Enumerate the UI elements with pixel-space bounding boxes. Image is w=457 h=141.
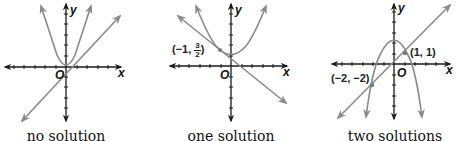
line-curve <box>22 16 120 121</box>
caption-one-solution: one solution <box>188 128 275 141</box>
x-axis-label: x <box>118 66 125 80</box>
x-axis-label: x <box>283 65 290 79</box>
y-axis-label: y <box>70 3 77 17</box>
point-label-1-1: (1, 1) <box>410 46 436 58</box>
point-label-prefix: (−1, <box>172 43 191 55</box>
caption-no-solution: no solution <box>27 128 106 141</box>
point-label-neg1-3half: (−1,32) <box>172 42 204 59</box>
intersection-point-1-1 <box>403 51 407 55</box>
line-curve <box>178 16 286 103</box>
panel-one-solution <box>170 4 287 121</box>
origin-label: O <box>220 68 229 82</box>
caption-two-solutions: two solutions <box>348 128 442 141</box>
point-label-suffix: ) <box>201 43 205 55</box>
intersection-point-neg2-neg2 <box>370 83 374 87</box>
origin-label: O <box>55 68 64 82</box>
y-axis-label: y <box>398 1 405 15</box>
panel-two-solutions <box>332 4 450 119</box>
origin-label: O <box>397 66 406 80</box>
panel-no-solution <box>5 4 121 121</box>
point-label-neg2-neg2: (−2, −2) <box>331 72 370 84</box>
y-axis <box>229 4 233 121</box>
tangent-point <box>218 48 222 52</box>
x-axis-label: x <box>446 63 453 77</box>
y-axis-label: y <box>235 3 242 17</box>
y-axis <box>64 4 68 121</box>
